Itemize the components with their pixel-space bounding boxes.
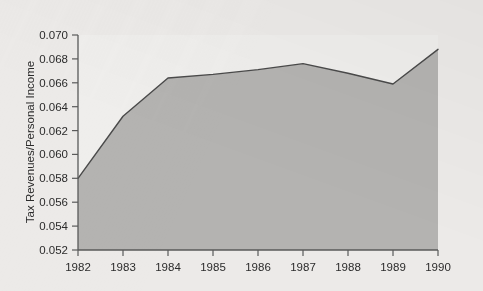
y-axis-title: Tax Revenues/Personal Income <box>24 61 36 223</box>
y-tick-label: 0.056 <box>39 196 68 208</box>
y-tick-label: 0.058 <box>39 172 68 184</box>
y-tick-label: 0.070 <box>39 29 68 41</box>
x-tick-label: 1990 <box>425 261 451 273</box>
x-axis-tick-labels: 1982 1983 1984 1985 1986 1987 1988 1989 … <box>65 261 451 273</box>
area-chart: 0.070 0.068 0.066 0.064 0.062 0.060 0.05… <box>0 0 483 291</box>
y-tick-label: 0.066 <box>39 77 68 89</box>
y-tick-label: 0.062 <box>39 125 68 137</box>
x-tick-label: 1983 <box>110 261 136 273</box>
x-tick-label: 1985 <box>200 261 226 273</box>
x-tick-label: 1989 <box>380 261 406 273</box>
y-tick-label: 0.052 <box>39 244 68 256</box>
x-tick-label: 1984 <box>155 261 181 273</box>
y-tick-label: 0.068 <box>39 53 68 65</box>
x-tick-label: 1986 <box>245 261 271 273</box>
x-tick-label: 1987 <box>290 261 316 273</box>
y-tick-label: 0.064 <box>39 101 68 113</box>
chart-figure: 0.070 0.068 0.066 0.064 0.062 0.060 0.05… <box>0 0 483 291</box>
x-tick-label: 1988 <box>335 261 361 273</box>
y-tick-label: 0.054 <box>39 220 68 232</box>
y-tick-label: 0.060 <box>39 148 68 160</box>
x-tick-label: 1982 <box>65 261 91 273</box>
